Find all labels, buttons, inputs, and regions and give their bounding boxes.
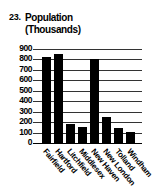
y-tick-label: 600 xyxy=(8,75,32,84)
y-tick-label: 300 xyxy=(8,107,32,116)
bar-new-haven xyxy=(90,59,99,143)
bar-fairfield xyxy=(42,57,51,143)
y-tick-label: 700 xyxy=(8,65,32,74)
bar-windham xyxy=(126,132,135,143)
bar-tolland xyxy=(114,128,123,143)
bar-new-london xyxy=(102,117,111,143)
gridline xyxy=(33,49,142,50)
bar-middlesex xyxy=(78,127,87,143)
y-tick-label: 100 xyxy=(8,128,32,137)
y-tick-label: 500 xyxy=(8,86,32,95)
y-tick-label: 400 xyxy=(8,96,32,105)
bar-litchfield xyxy=(66,124,75,143)
bar-hartford xyxy=(54,54,63,143)
y-tick-label: 0 xyxy=(8,138,32,147)
y-tick-label: 200 xyxy=(8,117,32,126)
x-axis-line xyxy=(33,143,142,144)
bar-chart: 9008007006005004003002001000FairfieldHar… xyxy=(0,0,156,194)
y-tick-label: 800 xyxy=(8,54,32,63)
y-tick-label: 900 xyxy=(8,44,32,53)
